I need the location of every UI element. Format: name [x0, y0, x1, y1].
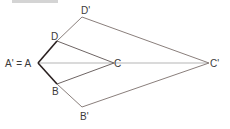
label-cprime: C' [210, 58, 219, 69]
segment-a-d [38, 41, 57, 63]
label-a: A' = A [5, 58, 31, 69]
segment-bprime-cprime [82, 63, 209, 107]
segment-b-bprime [57, 84, 82, 107]
label-bprime: B' [80, 111, 89, 122]
segment-d-c [57, 41, 114, 63]
label-d: D [51, 31, 58, 42]
label-b: B [52, 86, 59, 97]
segment-dprime-cprime [82, 17, 209, 63]
label-dprime: D' [81, 5, 90, 16]
segment-d-dprime [57, 17, 82, 41]
dilation-diagram: A' = A D B C D' B' C' [0, 0, 230, 129]
label-c: C [114, 58, 121, 69]
segment-b-c [57, 63, 114, 84]
segment-a-b [38, 63, 57, 84]
